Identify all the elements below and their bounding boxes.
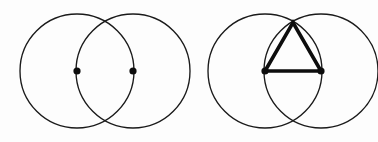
right-panel-center-point-left xyxy=(261,67,268,74)
right-panel-equilateral-triangle xyxy=(265,23,321,72)
right-panel-center-point-right xyxy=(317,67,324,74)
figure-canvas xyxy=(0,0,378,142)
panel-step-2-triangle-added xyxy=(0,0,378,142)
